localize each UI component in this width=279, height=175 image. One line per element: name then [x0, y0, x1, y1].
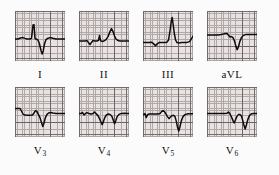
ecg-plot-lead-III [143, 11, 193, 61]
ecg-waveform-lead-II [79, 11, 129, 61]
lead-label-II: II [79, 69, 129, 80]
lead-label-subscript: 5 [170, 149, 174, 158]
ecg-waveform-lead-I [15, 11, 65, 61]
ecg-waveform-lead-III [143, 11, 193, 61]
ecg-trace-path [15, 25, 65, 54]
lead-label-text: III [162, 68, 175, 80]
ecg-panel-lead-aVL: aVL [207, 11, 257, 80]
lead-label-V5: V5 [143, 145, 193, 156]
ecg-waveform-lead-V4 [79, 87, 129, 137]
ecg-plot-lead-V3 [15, 87, 65, 137]
ecg-plot-lead-V6 [207, 87, 257, 137]
ecg-trace-path [207, 33, 257, 49]
lead-label-text: II [100, 68, 108, 80]
lead-label-I: I [15, 69, 65, 80]
lead-label-aVL: aVL [207, 69, 257, 80]
lead-label-subscript: 6 [234, 149, 238, 158]
ecg-trace-path [143, 18, 193, 46]
ecg-trace-path [79, 112, 129, 125]
ecg-panel-lead-V5: V5 [143, 87, 193, 156]
lead-label-V6: V6 [207, 145, 257, 156]
ecg-trace-path [79, 29, 129, 45]
lead-label-text: I [38, 68, 42, 80]
lead-label-V3: V3 [15, 145, 65, 156]
ecg-panel-lead-V4: V4 [79, 87, 129, 156]
lead-label-text: V [226, 144, 234, 156]
ecg-panel-lead-V6: V6 [207, 87, 257, 156]
ecg-waveform-lead-V5 [143, 87, 193, 137]
ecg-panel-lead-II: II [79, 11, 129, 80]
ecg-plot-lead-I [15, 11, 65, 61]
ecg-plot-lead-aVL [207, 11, 257, 61]
lead-label-text: V [98, 144, 106, 156]
ecg-trace-path [143, 111, 193, 131]
lead-label-subscript: 4 [106, 149, 110, 158]
ecg-panel-lead-I: I [15, 11, 65, 80]
ecg-lead-montage: I II III [0, 0, 279, 175]
ecg-waveform-lead-V6 [207, 87, 257, 137]
ecg-plot-lead-II [79, 11, 129, 61]
ecg-trace-path [207, 112, 257, 129]
lead-label-III: III [143, 69, 193, 80]
ecg-waveform-lead-V3 [15, 87, 65, 137]
ecg-plot-lead-V5 [143, 87, 193, 137]
ecg-panel-lead-V3: V3 [15, 87, 65, 156]
lead-label-text: V [34, 144, 42, 156]
ecg-plot-lead-V4 [79, 87, 129, 137]
lead-label-subscript: 3 [42, 149, 46, 158]
ecg-trace-path [15, 108, 65, 126]
ecg-waveform-lead-aVL [207, 11, 257, 61]
ecg-row-precordial-leads: V3 V4 V5 [0, 87, 279, 156]
ecg-row-limb-leads: I II III [0, 11, 279, 80]
ecg-panel-lead-III: III [143, 11, 193, 80]
lead-label-text: aVL [221, 68, 242, 80]
lead-label-V4: V4 [79, 145, 129, 156]
lead-label-text: V [162, 144, 170, 156]
